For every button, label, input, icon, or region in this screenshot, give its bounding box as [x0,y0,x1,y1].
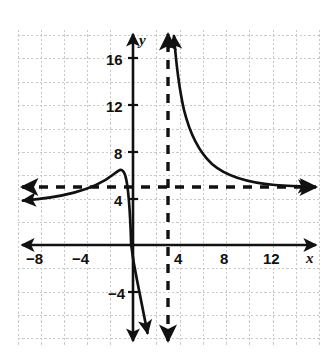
y-axis-label: y [139,32,146,49]
ytick-label-neg4: −4 [108,285,125,302]
xtick-label-12: 12 [263,250,280,267]
xtick-label-neg4: −4 [72,250,89,267]
ytick-label-12: 12 [106,98,123,115]
ytick-label-8: 8 [114,145,122,162]
graph-figure: x 5 [0,0,332,355]
x-axis-label: x [306,250,314,267]
xtick-label-neg8: −8 [26,250,43,267]
xtick-label-4: 4 [174,250,182,267]
ytick-label-4: 4 [114,192,122,209]
plot-background [0,0,332,355]
xtick-label-8: 8 [220,250,228,267]
ytick-label-16: 16 [106,51,123,68]
coordinate-plane [0,0,332,355]
